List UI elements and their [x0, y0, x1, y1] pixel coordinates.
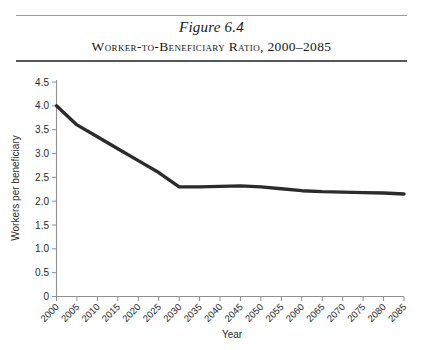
x-axis-ticks — [57, 297, 405, 302]
y-tick-label: 1.0 — [35, 243, 49, 254]
x-tick-label: 2030 — [161, 301, 184, 324]
y-tick-label: 4.0 — [35, 100, 49, 111]
x-tick-label: 2080 — [365, 301, 388, 324]
x-tick-label: 2000 — [38, 301, 61, 324]
figure-number: Figure 6.4 — [0, 19, 423, 36]
y-tick-label: 2.0 — [35, 196, 49, 207]
x-axis-tick-labels: 2000200520102015202020252030203520402045… — [38, 301, 408, 324]
x-tick-label: 2020 — [120, 301, 143, 324]
y-tick-label: 2.5 — [35, 172, 49, 183]
x-tick-label: 2010 — [79, 301, 102, 324]
worker-to-beneficiary-series — [57, 106, 405, 194]
y-tick-label: 1.5 — [35, 220, 49, 231]
x-tick-label: 2050 — [243, 301, 266, 324]
y-tick-label: 3.0 — [35, 148, 49, 159]
x-tick-label: 2060 — [283, 301, 306, 324]
x-tick-label: 2025 — [140, 301, 163, 324]
y-axis-tick-labels: 00.51.01.52.02.53.03.54.04.5 — [35, 77, 49, 303]
y-axis-ticks — [52, 82, 57, 297]
x-tick-label: 2040 — [202, 301, 225, 324]
y-tick-label: 0 — [43, 291, 49, 302]
y-tick-label: 4.5 — [35, 77, 49, 88]
chart-area: 00.51.01.52.02.53.03.54.04.5 20002005201… — [0, 62, 423, 350]
x-tick-label: 2085 — [386, 301, 409, 324]
figure-caption: Worker-to-Beneficiary Ratio, 2000–2085 — [0, 39, 423, 55]
y-axis-title: Workers per beneficiary — [10, 135, 21, 240]
x-tick-label: 2070 — [324, 301, 347, 324]
x-tick-label: 2035 — [181, 301, 204, 324]
line-chart: 00.51.01.52.02.53.03.54.04.5 20002005201… — [0, 62, 423, 350]
x-axis-title: Year — [222, 329, 243, 340]
y-tick-label: 0.5 — [35, 267, 49, 278]
x-tick-label: 2065 — [304, 301, 327, 324]
y-tick-label: 3.5 — [35, 124, 49, 135]
x-tick-label: 2045 — [222, 301, 245, 324]
x-tick-label: 2055 — [263, 301, 286, 324]
x-tick-label: 2005 — [59, 301, 82, 324]
header-rule-top — [16, 15, 407, 16]
x-tick-label: 2075 — [345, 301, 368, 324]
x-tick-label: 2015 — [100, 301, 123, 324]
